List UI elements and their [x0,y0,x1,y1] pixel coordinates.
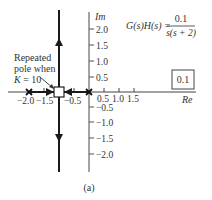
re-tick-label: 1.5 [127,94,139,104]
equation-numerator: 0.1 [175,13,188,24]
annotation-line-3: K = 10 [13,74,41,85]
arrow-up-icon [55,38,63,46]
equation-denominator: s(s + 2) [166,28,196,39]
breakaway-square-icon [54,87,64,97]
im-tick-label: −1.5 [96,134,113,144]
im-tick-label: 1.0 [96,57,108,67]
im-tick-label: 1.5 [96,41,108,51]
arrow-left-icon [64,88,72,96]
annotation-value: = 10 [21,74,42,85]
equation-lhs: G(s)H(s) = [126,20,171,32]
im-tick-label: −1.0 [96,118,113,128]
root-locus-diagram: 0.1 Re Im −2.0 −1.5 −0.5 0.5 1.0 1.5 2.0… [0,0,212,200]
re-tick-label: 1.0 [112,94,124,104]
gain-box-value: 0.1 [177,74,190,85]
arrow-right-icon [46,88,54,96]
re-tick-label: −2.0 [17,96,34,106]
annotation-line-1: Repeated [14,52,51,63]
im-tick-label: −0.5 [96,103,113,113]
re-tick-label: −0.5 [64,96,81,106]
im-tick-label: −2.0 [96,150,113,160]
figure-caption: (a) [83,182,94,194]
annotation-line-2: pole when [14,63,55,74]
arrow-down-icon [55,134,63,142]
im-axis-label: Im [94,11,106,22]
re-tick-label: −1.5 [36,96,53,106]
im-tick-label: 0.5 [96,73,108,83]
re-axis-label: Re [181,94,193,105]
im-tick-label: 2.0 [96,25,108,35]
